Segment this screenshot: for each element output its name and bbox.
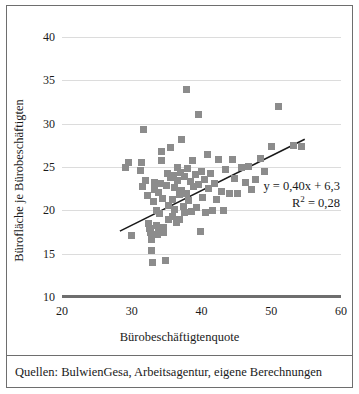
data-point [185,197,192,204]
data-point [169,196,176,203]
data-point [128,232,135,239]
data-point [231,175,238,182]
gridline-y-35 [62,80,341,81]
y-axis-tick-10: 10 [43,291,55,303]
x-axis-baseline [62,295,341,298]
data-point [268,143,275,150]
footer-divider [7,355,352,356]
data-point [204,151,211,158]
data-point [220,207,227,214]
data-point [138,159,145,166]
gridline-y-40 [62,37,341,38]
x-axis-tick-30: 30 [126,305,138,317]
data-point [171,206,178,213]
data-point [252,176,259,183]
data-point [174,177,181,184]
data-point [193,204,200,211]
regression-equation: y = 0,40x + 6,3 [263,178,340,195]
y-axis-tick-15: 15 [43,248,55,260]
data-point [211,180,218,187]
data-point [149,259,156,266]
y-axis-tick-25: 25 [43,161,55,173]
data-point [248,186,255,193]
x-axis-tick-20: 20 [56,305,68,317]
regression-annotation: y = 0,40x + 6,3 R2 = 0,28 [263,178,340,211]
data-point [162,257,169,264]
data-point [148,247,155,254]
chart-panel: 101520253035402030405060 y = 0,40x + 6,3… [7,6,352,355]
data-point [209,207,216,214]
y-axis-tick-30: 30 [43,118,55,130]
data-point [198,168,205,175]
data-point [197,228,204,235]
data-point [140,126,147,133]
data-point [163,182,170,189]
x-axis-tick-60: 60 [335,305,347,317]
data-point [215,156,222,163]
data-point [222,166,229,173]
data-point [178,136,185,143]
data-point [238,164,245,171]
data-point [167,144,174,151]
data-point [234,190,241,197]
data-point [147,229,154,236]
data-point [139,183,146,190]
data-point [183,190,190,197]
data-point [207,170,214,177]
data-point [150,198,157,205]
data-point [189,157,196,164]
y-axis-tick-40: 40 [43,31,55,43]
data-point [275,103,282,110]
data-point [242,179,249,186]
data-point [142,177,149,184]
data-point [213,196,220,203]
y-axis-title: Bürofläche je Bürobeschäftigten [8,6,30,355]
data-point [245,163,252,170]
y-axis-title-text: Bürofläche je Bürobeschäftigten [12,99,27,261]
data-point [298,143,305,150]
data-point [156,210,163,217]
gridline-y-15 [62,254,341,255]
regression-r-squared: R2 = 0,28 [263,195,340,212]
data-point [160,229,167,236]
figure-container: 101520253035402030405060 y = 0,40x + 6,3… [0,0,359,394]
data-point [195,111,202,118]
x-axis-tick-50: 50 [265,305,277,317]
data-point [125,159,132,166]
data-point [159,195,166,202]
y-axis-tick-20: 20 [43,204,55,216]
data-point [290,142,297,149]
data-point [229,156,236,163]
data-point [184,165,191,172]
data-point [176,216,183,223]
data-point [158,148,165,155]
data-point [257,155,264,162]
y-axis-tick-35: 35 [43,74,55,86]
data-point [199,194,206,201]
x-axis-title: Bürobeschäftigtenquote [7,330,352,345]
data-point [261,168,268,175]
data-point [226,190,233,197]
gridline-y-30 [62,124,341,125]
data-point [137,167,144,174]
data-point [202,209,209,216]
data-point [183,86,190,93]
data-point [218,188,225,195]
source-note: Quellen: BulwienGesa, Arbeitsagentur, ei… [15,365,345,380]
data-point [158,157,165,164]
data-point [201,176,208,183]
r-squared-value: = 0,28 [305,196,340,210]
x-axis-tick-40: 40 [196,305,208,317]
plot-area: 101520253035402030405060 [62,37,341,297]
